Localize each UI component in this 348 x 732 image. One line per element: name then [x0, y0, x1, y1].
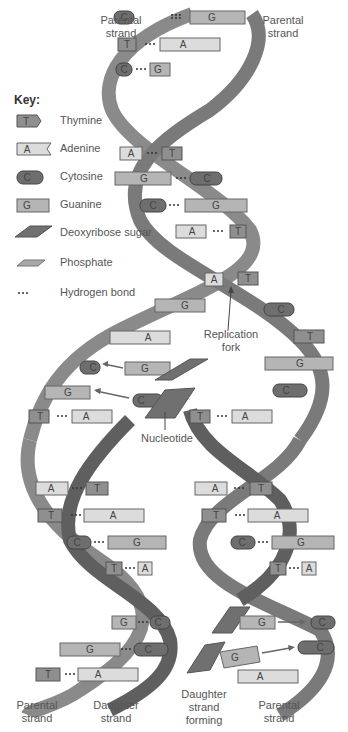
svg-text:G: G	[64, 387, 72, 398]
svg-text:C: C	[149, 200, 156, 211]
svg-text:G: G	[212, 200, 220, 211]
svg-text:G: G	[141, 363, 149, 374]
deoxyribose-sugar-key-icon	[15, 226, 52, 237]
svg-text:C: C	[282, 385, 289, 396]
svg-text:C: C	[203, 173, 210, 184]
svg-text:C: C	[238, 537, 245, 548]
svg-text:G: G	[181, 300, 189, 311]
svg-text:G: G	[258, 617, 266, 628]
base-pair-row: A T	[176, 225, 246, 238]
svg-text:T: T	[275, 563, 281, 574]
svg-text:T: T	[48, 510, 54, 521]
svg-text:T: T	[45, 669, 51, 680]
label-daughter-strand-forming: Daughter strand forming	[176, 688, 232, 727]
svg-text:C: C	[73, 537, 80, 548]
svg-text:A: A	[110, 510, 117, 521]
svg-text:A: A	[211, 274, 218, 285]
svg-text:A: A	[189, 226, 196, 237]
svg-text:A: A	[24, 144, 31, 155]
svg-text:G: G	[133, 537, 141, 548]
svg-text:A: A	[306, 563, 313, 574]
svg-text:C: C	[316, 642, 323, 653]
key-title: Key:	[14, 93, 40, 107]
adenine-key-icon: A	[17, 143, 51, 155]
right-forming-nucleotides: G C G C A	[187, 607, 335, 683]
svg-text:A: A	[145, 332, 152, 343]
svg-text:C: C	[23, 172, 30, 183]
svg-text:G: G	[297, 537, 305, 548]
key-label-phosphate: Phosphate	[60, 256, 113, 268]
svg-text:C: C	[137, 395, 144, 406]
svg-text:G: G	[23, 200, 31, 211]
label-daughter-strand-bottom-left: Daughter strand	[88, 699, 144, 725]
dna-replication-diagram: .bt { font-family: "Liberation Sans", sa…	[0, 0, 348, 732]
base-pair-row: C G	[140, 199, 247, 212]
key-label-guanine: Guanine	[60, 198, 102, 210]
svg-text:G: G	[231, 652, 239, 663]
svg-text:C: C	[144, 644, 151, 655]
label-replication-fork: Replication fork	[200, 328, 262, 354]
svg-text:T: T	[169, 148, 175, 159]
svg-text:T: T	[197, 411, 203, 422]
svg-text:A: A	[142, 563, 149, 574]
svg-text:A: A	[48, 483, 55, 494]
svg-text:T: T	[124, 39, 130, 50]
svg-text:A: A	[242, 411, 249, 422]
svg-text:G: G	[154, 64, 162, 75]
svg-text:A: A	[180, 39, 187, 50]
svg-text:G: G	[296, 358, 304, 369]
svg-text:T: T	[258, 483, 264, 494]
svg-text:T: T	[23, 116, 29, 127]
key-symbols: T A C G	[15, 115, 52, 294]
phosphate-key-icon	[17, 260, 45, 266]
svg-text:T: T	[245, 273, 251, 284]
svg-text:T: T	[307, 331, 313, 342]
svg-text:G: G	[208, 12, 216, 23]
svg-text:T: T	[235, 226, 241, 237]
svg-text:A: A	[83, 411, 90, 422]
svg-text:G: G	[140, 173, 148, 184]
cytosine-key-icon: C	[17, 171, 43, 184]
svg-text:C: C	[120, 64, 127, 75]
svg-text:A: A	[212, 483, 219, 494]
svg-text:A: A	[257, 671, 264, 682]
label-parental-strand-top-right: Parental strand	[258, 14, 308, 40]
key-label-cytosine: Cytosine	[60, 170, 103, 182]
svg-text:A: A	[274, 510, 281, 521]
svg-text:C: C	[89, 362, 96, 373]
svg-text:C: C	[154, 617, 161, 628]
label-parental-strand-bottom-left: Parental strand	[12, 699, 62, 725]
svg-text:T: T	[111, 563, 117, 574]
svg-text:C: C	[277, 304, 284, 315]
key-label-deoxyribose-sugar: Deoxyribose sugar	[60, 226, 152, 238]
svg-text:G: G	[86, 644, 94, 655]
key-label-thymine: Thymine	[60, 114, 102, 126]
guanine-key-icon: G	[17, 199, 49, 212]
key-label-hydrogen-bond: Hydrogen bond	[60, 286, 135, 298]
incoming-nucleotide: C G	[80, 359, 208, 380]
label-nucleotide: Nucleotide	[137, 432, 197, 445]
replication-fork-pointer	[228, 286, 234, 330]
svg-text:T: T	[213, 510, 219, 521]
svg-text:A: A	[128, 148, 135, 159]
svg-text:T: T	[37, 411, 43, 422]
base-pair-row: G C	[115, 172, 222, 185]
thymine-key-icon: T	[17, 115, 41, 127]
hydrogen-bond-key-icon	[18, 292, 28, 294]
svg-text:G: G	[120, 617, 128, 628]
incoming-nucleotide: G C	[45, 386, 195, 418]
svg-text:T: T	[94, 483, 100, 494]
label-parental-strand-top-left: Parental strand	[96, 14, 146, 40]
base-pair-row: C G	[116, 63, 170, 76]
key-label-adenine: Adenine	[60, 142, 100, 154]
svg-text:A: A	[95, 669, 102, 680]
svg-text:C: C	[318, 617, 325, 628]
label-parental-strand-bottom-right: Parental strand	[254, 699, 304, 725]
